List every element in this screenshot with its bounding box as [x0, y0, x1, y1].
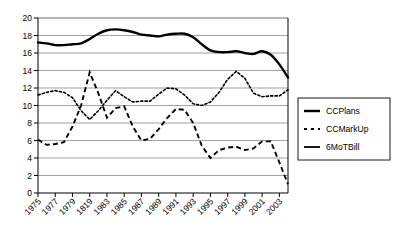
line-chart: 02468101214161820 1975197719791819198319…	[0, 0, 400, 235]
y-axis-ticks	[34, 18, 38, 193]
y-tick-label: 14	[23, 66, 33, 76]
legend-label-2: 6MoTBill	[326, 142, 360, 152]
x-tick-label: 1979	[57, 196, 78, 217]
y-tick-label: 20	[23, 13, 33, 23]
series-line-6motbill	[38, 72, 288, 184]
y-axis-tick-labels: 02468101214161820	[23, 13, 33, 198]
x-tick-label: 1987	[126, 196, 147, 217]
gridlines	[38, 18, 288, 176]
x-axis-ticks	[38, 193, 279, 197]
y-tick-label: 8	[27, 118, 32, 128]
x-tick-label: 1989	[143, 196, 164, 217]
legend-label-0: CCPlans	[326, 106, 360, 116]
y-tick-label: 2	[27, 171, 32, 181]
y-tick-label: 6	[27, 136, 32, 146]
chart-container: 02468101214161820 1975197719791819198319…	[0, 0, 400, 235]
x-tick-label: 1819	[74, 196, 95, 217]
y-tick-label: 10	[23, 101, 33, 111]
x-tick-label: 1983	[91, 196, 112, 217]
y-tick-label: 12	[23, 83, 33, 93]
x-tick-label: 1993	[178, 196, 199, 217]
x-tick-label: 1977	[40, 196, 61, 217]
x-tick-label: 2003	[264, 196, 285, 217]
x-tick-label: 1999	[229, 196, 250, 217]
x-tick-label: 1991	[160, 196, 181, 217]
y-tick-label: 4	[27, 153, 32, 163]
x-tick-label: 1997	[212, 196, 233, 217]
y-tick-label: 16	[23, 48, 33, 58]
x-tick-label: 1995	[195, 196, 216, 217]
x-axis-tick-labels: 1975197719791819198319851987198919911993…	[22, 196, 284, 217]
x-tick-label: 1975	[22, 196, 43, 217]
series-line-ccmarkup	[38, 71, 288, 119]
legend-label-1: CCMarkUp	[326, 124, 369, 134]
y-tick-label: 0	[27, 188, 32, 198]
y-tick-label: 18	[23, 31, 33, 41]
chart-legend: CCPlansCCMarkUp6MoTBill	[298, 98, 390, 160]
x-tick-label: 1985	[109, 196, 130, 217]
x-tick-label: 2001	[247, 196, 268, 217]
